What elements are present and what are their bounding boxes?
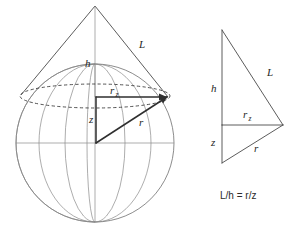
label-h-right: h	[211, 82, 217, 94]
label-h-left: h	[85, 57, 91, 69]
label-z-right: z	[210, 136, 216, 148]
label-L-right: L	[266, 66, 273, 78]
label-rz-right-subscript: z	[248, 114, 252, 123]
label-rz-left-base: r	[110, 84, 115, 96]
label-r-left: r	[139, 116, 144, 128]
label-z-left: z	[88, 113, 94, 125]
label-L-left: L	[138, 38, 145, 50]
label-rz-left-subscript: z	[115, 90, 119, 99]
similarity-equation: L/h = r/z	[220, 190, 256, 201]
geometry-figure: h L r z z r h L r z z r L/h = r/z	[0, 0, 298, 228]
label-rz-right-base: r	[243, 108, 248, 120]
label-r-right: r	[254, 142, 259, 154]
